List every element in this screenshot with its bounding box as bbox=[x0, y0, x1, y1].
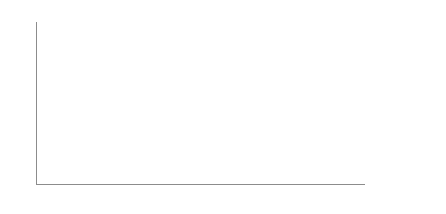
total-line-series bbox=[36, 22, 365, 185]
chart-container bbox=[0, 0, 446, 214]
x-axis-labels bbox=[36, 189, 365, 214]
chart-caption bbox=[12, 0, 192, 6]
plot-area bbox=[36, 22, 365, 185]
